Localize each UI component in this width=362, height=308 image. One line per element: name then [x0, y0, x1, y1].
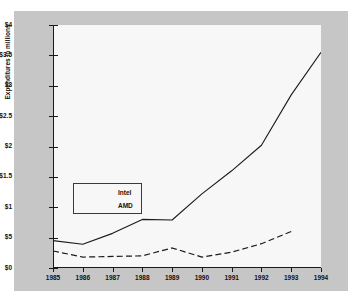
x-tick-5 — [202, 268, 203, 272]
y-tick-inner-1 — [54, 238, 58, 239]
x-axis-line — [53, 267, 321, 268]
y-axis-title-text: Expenditures in millions — [4, 0, 11, 127]
y-tick-label-8: $4 — [0, 22, 12, 29]
y-tick-inner-3 — [54, 177, 58, 178]
y-tick-inner-7 — [54, 55, 58, 56]
line-series-amd — [53, 232, 291, 258]
x-tick-4 — [172, 268, 173, 272]
x-tick-9 — [321, 268, 322, 272]
line-series-intel — [53, 52, 321, 244]
y-tick-inner-8 — [54, 25, 58, 26]
x-tick-7 — [261, 268, 262, 272]
x-tick-label-1994: 1994 — [304, 275, 338, 282]
y-tick-label-2: $1 — [0, 204, 12, 211]
y-tick-inner-0 — [54, 268, 58, 269]
legend-item-intel: Intel — [77, 187, 140, 198]
legend-label-amd: AMD — [118, 200, 133, 211]
legend-item-amd: AMD — [77, 200, 140, 211]
y-tick-inner-4 — [54, 147, 58, 148]
y-tick-label-6: $3 — [0, 82, 12, 89]
chart-legend: Intel AMD — [73, 183, 142, 214]
y-tick-label-7: $3.5 — [0, 52, 12, 59]
y-tick-5 — [49, 116, 53, 117]
legend-label-intel: Intel — [118, 187, 131, 198]
y-tick-label-4: $2 — [0, 143, 12, 150]
y-tick-7 — [49, 55, 53, 56]
y-axis-title: Expenditures in millions — [4, 0, 11, 71]
y-tick-inner-6 — [54, 86, 58, 87]
x-tick-6 — [232, 268, 233, 272]
x-tick-0 — [53, 268, 54, 272]
x-tick-1 — [83, 268, 84, 272]
y-tick-8 — [49, 25, 53, 26]
chart-figure-panel: Expenditures in millions $0$5$1$1.5$2$2.… — [14, 11, 348, 291]
y-tick-1 — [49, 238, 53, 239]
plot-wrapper: $0$5$1$1.5$2$2.5$3$3.5$4 198519861987198… — [53, 25, 321, 268]
series-lines — [53, 25, 321, 268]
x-tick-2 — [113, 268, 114, 272]
y-tick-label-5: $2.5 — [0, 113, 12, 120]
x-tick-8 — [291, 268, 292, 272]
y-tick-inner-2 — [54, 207, 58, 208]
y-tick-label-0: $0 — [0, 265, 12, 272]
y-tick-label-3: $1.5 — [0, 173, 12, 180]
y-tick-3 — [49, 177, 53, 178]
y-tick-6 — [49, 86, 53, 87]
y-tick-2 — [49, 207, 53, 208]
x-tick-3 — [142, 268, 143, 272]
y-tick-inner-5 — [54, 116, 58, 117]
y-tick-label-1: $5 — [0, 234, 12, 241]
y-tick-4 — [49, 147, 53, 148]
